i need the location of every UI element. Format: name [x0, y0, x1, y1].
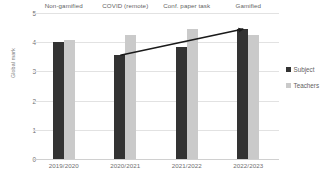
gridline: [33, 159, 279, 160]
bar-pair: [176, 13, 198, 159]
bar-pair: [53, 13, 75, 159]
legend-label: Teachers: [294, 82, 320, 89]
bar-group: Gamified: [218, 13, 280, 159]
legend-label: Subject: [294, 66, 315, 73]
bar-teachers[interactable]: [64, 40, 75, 159]
plot-area: Non-gamifiedCOVID (remote)Conf. paper ta…: [33, 13, 279, 159]
group-annotation-label: Conf. paper task: [163, 2, 210, 9]
bar-teachers[interactable]: [248, 35, 259, 159]
x-axis-tick-label: 2019/2020: [33, 162, 95, 169]
bar-group: Non-gamified: [33, 13, 95, 159]
legend-item[interactable]: Subject: [286, 66, 319, 73]
x-axis-tick-label: 2021/2022: [156, 162, 218, 169]
legend-swatch-icon: [286, 83, 291, 88]
x-axis-labels: 2019/20202020/20212021/20222022/2023: [33, 162, 279, 169]
legend: SubjectTeachers: [286, 66, 319, 89]
bar-group: Conf. paper task: [156, 13, 218, 159]
bar-subject[interactable]: [176, 47, 187, 159]
bar-pair: [114, 13, 136, 159]
bar-subject[interactable]: [114, 55, 125, 159]
legend-swatch-icon: [286, 67, 291, 72]
bar-groups: Non-gamifiedCOVID (remote)Conf. paper ta…: [33, 13, 279, 159]
group-annotation-label: Gamified: [235, 2, 261, 9]
bar-teachers[interactable]: [125, 35, 136, 159]
legend-item[interactable]: Teachers: [286, 82, 319, 89]
x-axis-tick-label: 2020/2021: [95, 162, 157, 169]
bar-chart: Global mark 012345 Non-gamifiedCOVID (re…: [0, 0, 332, 182]
bar-pair: [237, 13, 259, 159]
x-axis-tick-label: 2022/2023: [218, 162, 280, 169]
group-annotation-label: Non-gamified: [45, 2, 83, 9]
group-annotation-label: COVID (remote): [102, 2, 148, 9]
bar-group: COVID (remote): [95, 13, 157, 159]
bar-teachers[interactable]: [187, 29, 198, 159]
bar-subject[interactable]: [53, 42, 64, 159]
bar-subject[interactable]: [237, 29, 248, 159]
